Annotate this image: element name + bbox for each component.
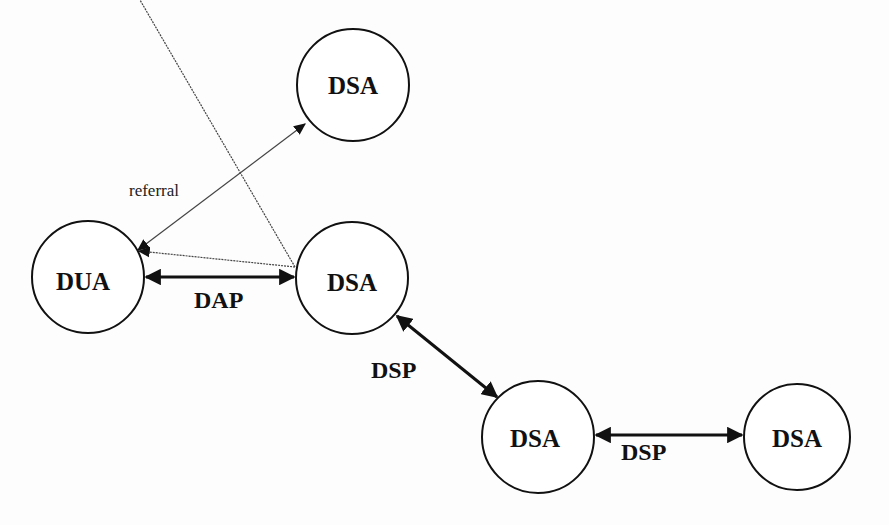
node-label: DSA	[328, 72, 378, 99]
node-dsa-right: DSA	[744, 384, 850, 490]
dap-label: DAP	[194, 287, 243, 313]
dsp-label-2: DSP	[621, 439, 666, 465]
node-label: DSA	[510, 425, 560, 452]
node-dsa-mid: DSA	[296, 222, 408, 334]
edge-referral-return	[139, 0, 295, 267]
directory-diagram: DSA DUA DSA DSA DSA referral DAP DSP DSP	[0, 0, 889, 525]
node-dsa-low: DSA	[482, 381, 594, 493]
node-label: DUA	[56, 268, 110, 295]
node-label: DSA	[772, 425, 822, 452]
dsp-label-1: DSP	[371, 357, 416, 383]
node-dsa-top: DSA	[297, 29, 409, 141]
node-label: DSA	[327, 269, 377, 296]
referral-label: referral	[129, 181, 179, 200]
node-dua: DUA	[32, 221, 144, 333]
